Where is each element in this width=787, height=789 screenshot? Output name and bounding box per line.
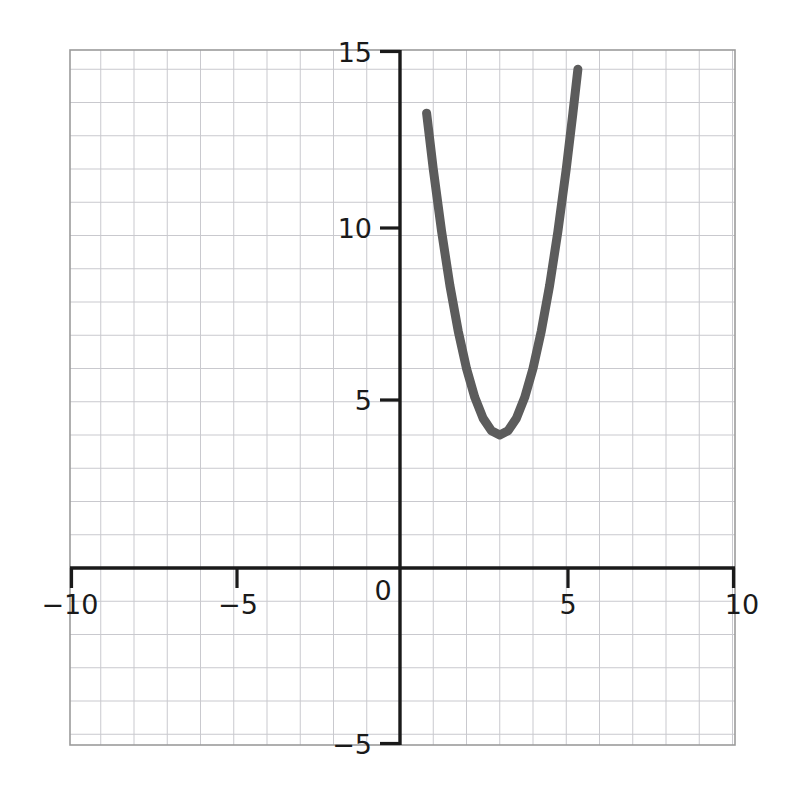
y-tick-label-5: 5 xyxy=(355,385,372,416)
x-tick-label--10: −10 xyxy=(42,589,99,620)
plot-background xyxy=(70,50,735,745)
origin-label: 0 xyxy=(374,575,391,606)
x-tick-label--5: −5 xyxy=(218,589,258,620)
y-tick-label-15: 15 xyxy=(338,37,372,68)
x-tick-label-5: 5 xyxy=(559,589,576,620)
graph-figure: −10 −5 0 5 10 15 10 5 −5 xyxy=(0,0,787,789)
y-tick-label--5: −5 xyxy=(332,729,372,760)
coordinate-plane-svg: −10 −5 0 5 10 15 10 5 −5 xyxy=(0,0,787,789)
x-tick-label-10: 10 xyxy=(725,589,759,620)
y-tick-label-10: 10 xyxy=(338,213,372,244)
